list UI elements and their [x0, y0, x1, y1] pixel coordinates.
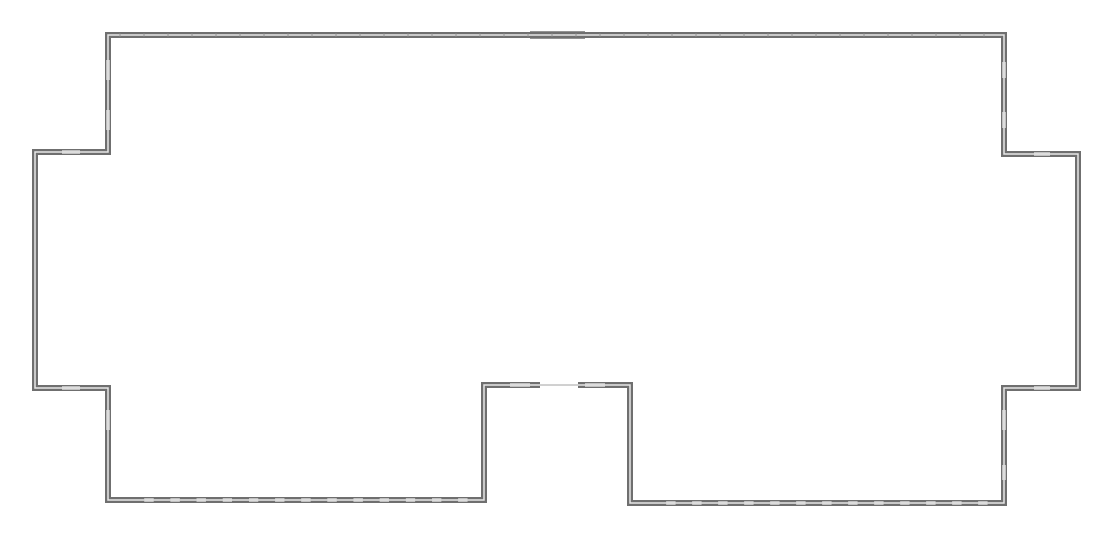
window-icon — [171, 499, 180, 501]
window-icon — [223, 499, 232, 501]
window-icon — [1003, 465, 1005, 480]
window-icon — [1003, 112, 1005, 128]
window-icon — [275, 499, 284, 501]
window-icon — [666, 502, 675, 504]
window-icon — [978, 502, 987, 504]
window-icon — [62, 387, 80, 389]
window-icon — [107, 60, 109, 80]
window-icon — [380, 499, 389, 501]
window-icon — [107, 410, 109, 430]
window-icon — [301, 499, 310, 501]
exterior-walls — [35, 35, 1078, 503]
window-icon — [770, 502, 779, 504]
window-icon — [1034, 153, 1050, 155]
window-icon — [692, 502, 701, 504]
window-icon — [744, 502, 753, 504]
window-icon — [197, 499, 206, 501]
window-icon — [107, 110, 109, 130]
wall-outer — [35, 35, 1078, 503]
window-icon — [822, 502, 831, 504]
wall-inner-line — [35, 35, 1078, 503]
window-icon — [874, 502, 883, 504]
window-icon — [327, 499, 336, 501]
floor-plan — [0, 0, 1102, 533]
window-icon — [249, 499, 258, 501]
window-icon — [1003, 410, 1005, 430]
window-icon — [1034, 387, 1050, 389]
window-icon — [796, 502, 805, 504]
window-icon — [1003, 62, 1005, 78]
window-icon — [900, 502, 909, 504]
window-icon — [458, 499, 467, 501]
window-icon — [718, 502, 727, 504]
window-icon — [406, 499, 415, 501]
window-icon — [144, 499, 153, 501]
window-icon — [952, 502, 961, 504]
window-icon — [62, 151, 80, 153]
window-icon — [926, 502, 935, 504]
window-icon — [585, 384, 605, 386]
window-icon — [354, 499, 363, 501]
window-icon — [510, 384, 530, 386]
window-icon — [848, 502, 857, 504]
windows — [62, 32, 1050, 504]
window-icon — [432, 499, 441, 501]
